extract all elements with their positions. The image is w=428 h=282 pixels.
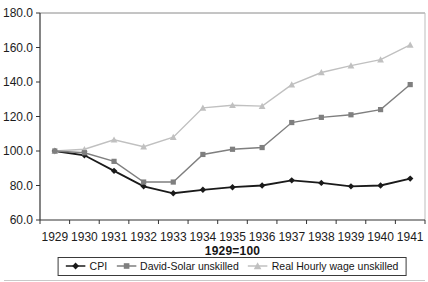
cpi-line-diamond-icon [66,261,86,271]
data-point [82,150,87,155]
chart-legend: CPI David-Solar unskilled Real Hourly wa… [58,257,407,276]
data-point [259,182,265,188]
data-point [171,179,176,184]
y-tick-label: 120.0 [3,110,33,124]
data-point [229,184,235,190]
real-wage-line-triangle-icon [248,261,268,271]
x-tick-label: 1941 [397,230,424,244]
x-tick-label: 1933 [160,230,187,244]
data-point [200,187,206,193]
x-tick-label: 1934 [190,230,217,244]
x-tick-label: 1930 [71,230,98,244]
legend-item-david-solar: David-Solar unskilled [116,260,239,272]
legend-label-david-solar: David-Solar unskilled [140,260,239,272]
line-chart-plot: 60.080.0100.0120.0140.0160.0180.01929193… [0,0,428,258]
x-tick-label: 1935 [219,230,246,244]
x-tick-label: 1936 [249,230,276,244]
x-tick-label: 1938 [308,230,335,244]
david-solar-line-square-icon [116,261,136,271]
x-tick-label: 1939 [338,230,365,244]
y-tick-label: 140.0 [3,75,33,89]
data-point [377,182,383,188]
x-tick-label: 1940 [367,230,394,244]
data-point [289,120,294,125]
y-tick-label: 160.0 [3,41,33,55]
x-axis-title: 1929=100 [40,244,425,258]
x-tick-label: 1937 [278,230,305,244]
bottom-rule-line [4,280,425,281]
series-line-2 [55,45,410,151]
chart-figure: 60.080.0100.0120.0140.0160.0180.01929193… [0,0,428,282]
data-point [289,177,295,183]
y-tick-label: 180.0 [3,6,33,20]
data-point [319,115,324,120]
x-tick-label: 1931 [101,230,128,244]
data-point [230,147,235,152]
data-point [407,175,413,181]
data-point [348,183,354,189]
data-point [260,145,265,150]
data-point [111,159,116,164]
data-point [170,190,176,196]
data-point [408,82,413,87]
data-point [378,107,383,112]
data-point [200,152,205,157]
data-point [111,168,117,174]
y-tick-label: 60.0 [10,213,34,227]
y-tick-label: 80.0 [10,179,34,193]
data-point [111,136,118,142]
x-tick-label: 1929 [41,230,68,244]
legend-label-real-wage: Real Hourly wage unskilled [272,260,399,272]
legend-label-cpi: CPI [90,260,108,272]
data-point [348,112,353,117]
legend-item-real-wage: Real Hourly wage unskilled [248,260,399,272]
data-point [318,180,324,186]
data-point [407,42,414,48]
x-tick-label: 1932 [130,230,157,244]
data-point [377,56,384,62]
legend-item-cpi: CPI [66,260,108,272]
data-point [52,148,57,153]
y-tick-label: 100.0 [3,144,33,158]
data-point [141,179,146,184]
